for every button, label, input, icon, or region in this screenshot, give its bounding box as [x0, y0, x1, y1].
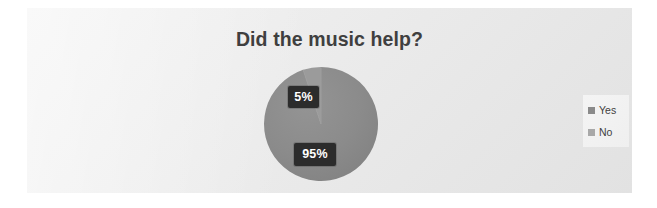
screenshot-canvas: Did the music help? 5%	[0, 0, 657, 208]
chart-legend: Yes No	[583, 95, 629, 147]
legend-swatch-yes-icon	[588, 107, 595, 114]
chart-title: Did the music help?	[27, 28, 632, 51]
legend-label-yes: Yes	[599, 105, 616, 116]
data-label-yes: 95%	[294, 143, 336, 166]
legend-label-no: No	[599, 127, 612, 138]
legend-item-no[interactable]: No	[588, 123, 629, 141]
chart-panel: Did the music help? 5%	[27, 8, 632, 193]
data-label-no: 5%	[288, 86, 319, 108]
legend-item-yes[interactable]: Yes	[588, 101, 629, 119]
legend-swatch-no-icon	[588, 129, 595, 136]
